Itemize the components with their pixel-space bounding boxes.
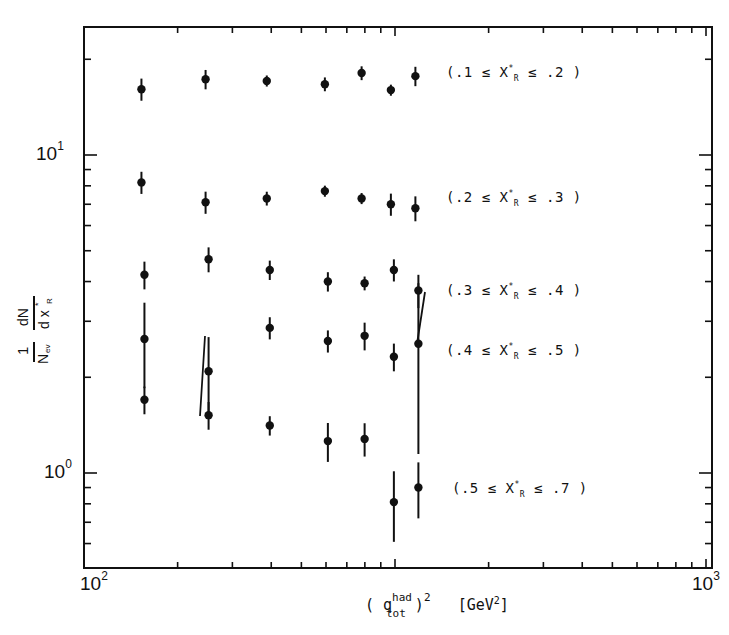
data-point (204, 255, 212, 263)
data-point (387, 200, 395, 208)
data-point (266, 266, 274, 274)
x-tick-label-10-2: 102 (80, 572, 108, 595)
y-tick-label-10-1: 101 (36, 142, 64, 165)
data-point (324, 437, 332, 445)
data-point (324, 337, 332, 345)
data-point (414, 483, 422, 491)
series-label-2: (.2 ≤ X*R ≤ .3 ) (446, 189, 582, 208)
series-label-1: (.1 ≤ X*R ≤ .2 ) (446, 64, 582, 83)
data-point (201, 75, 209, 83)
svg-text:1: 1 (14, 347, 31, 355)
data-point (266, 421, 274, 429)
data-points (137, 66, 425, 542)
series-label-4: (.4 ≤ X*R ≤ .5 ) (446, 342, 582, 361)
data-point (263, 194, 271, 202)
data-point (140, 335, 148, 343)
data-point (390, 353, 398, 361)
y-axis-label: 1 N ev dN d x * R (8, 250, 68, 370)
data-point (266, 324, 274, 332)
svg-text:*: * (33, 302, 43, 306)
axis-ticks (84, 27, 712, 568)
x-axis-label: ( qhadtot )2 [GeV2] (365, 596, 509, 614)
svg-text:ev: ev (43, 345, 52, 353)
data-point (360, 279, 368, 287)
data-point (137, 85, 145, 93)
data-point (411, 72, 419, 80)
data-point (137, 178, 145, 186)
data-point (390, 498, 398, 506)
svg-text:N: N (35, 354, 51, 364)
data-point (357, 194, 365, 202)
data-point (324, 277, 332, 285)
series-label-3: (.3 ≤ X*R ≤ .4 ) (446, 282, 582, 301)
data-point (204, 411, 212, 419)
data-point (321, 187, 329, 195)
svg-text:d x: d x (36, 310, 52, 329)
data-point (411, 204, 419, 212)
data-point (390, 266, 398, 274)
axes-frame (84, 27, 712, 568)
svg-text:dN: dN (15, 308, 31, 326)
chart-plot-area (0, 0, 729, 635)
data-point (360, 435, 368, 443)
data-point (201, 198, 209, 206)
data-point (321, 80, 329, 88)
series-label-5: (.5 ≤ X*R ≤ .7 ) (452, 480, 588, 499)
x-tick-label-10-3: 103 (692, 572, 720, 595)
svg-text:R: R (45, 298, 54, 304)
data-point (140, 271, 148, 279)
data-point (387, 86, 395, 94)
data-point (357, 69, 365, 77)
y-tick-label-10-0: 100 (44, 460, 72, 483)
data-point (140, 396, 148, 404)
data-point (204, 367, 212, 375)
data-point (360, 332, 368, 340)
data-point (263, 77, 271, 85)
